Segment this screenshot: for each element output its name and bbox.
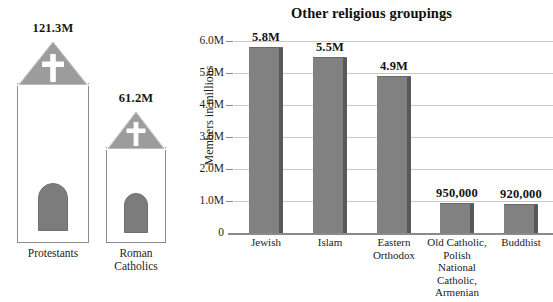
y-tick-mark bbox=[226, 201, 233, 202]
church-roof-icon bbox=[17, 40, 89, 86]
x-axis-category-label: Islam bbox=[297, 236, 363, 249]
y-tick-label: 6.0M bbox=[182, 34, 224, 46]
bar[interactable] bbox=[377, 76, 411, 233]
y-tick-mark bbox=[226, 73, 233, 74]
y-tick-mark bbox=[226, 137, 233, 138]
bar[interactable] bbox=[440, 203, 474, 233]
bar-shadow-edge bbox=[279, 48, 283, 233]
bar[interactable] bbox=[313, 57, 347, 233]
chart-title: Other religious groupings bbox=[190, 5, 553, 22]
bar-value-label: 5.5M bbox=[316, 40, 344, 55]
bar-face bbox=[377, 76, 411, 233]
x-axis-category-label: Old Catholic, Polish National Catholic, … bbox=[424, 236, 490, 299]
y-tick-mark bbox=[226, 41, 233, 42]
bar-shadow-edge bbox=[470, 204, 474, 233]
bar-value-label: 4.9M bbox=[380, 59, 408, 74]
bar-face bbox=[504, 204, 538, 233]
y-tick-label: 0 bbox=[182, 226, 224, 238]
bar[interactable] bbox=[504, 204, 538, 233]
bar-chart: Other religious groupings Members in mil… bbox=[190, 0, 553, 302]
bar-shadow-edge bbox=[407, 77, 411, 233]
bar-face bbox=[313, 57, 347, 233]
bar[interactable] bbox=[249, 47, 283, 233]
bar-face bbox=[249, 47, 283, 233]
x-axis-category-label: Eastern Orthodox bbox=[361, 236, 427, 261]
church-icon bbox=[17, 40, 89, 243]
bar-value-label: 5.8M bbox=[252, 30, 280, 45]
y-tick-mark bbox=[226, 105, 233, 106]
pictogram-name-label: Roman Catholics bbox=[92, 247, 180, 274]
x-axis-category-label: Buddhist bbox=[488, 236, 553, 249]
x-axis-category-label: Jewish bbox=[233, 236, 299, 249]
pictogram-roman-catholics: 61.2M Roman Catholics bbox=[92, 92, 180, 274]
bar-shadow-edge bbox=[534, 205, 538, 233]
pictogram-value-label: 61.2M bbox=[92, 92, 180, 105]
pictogram-panel: 121.3M Protestants 61.2M bbox=[0, 0, 190, 302]
pictogram-value-label: 121.3M bbox=[8, 22, 98, 35]
y-tick-label: 4.0M bbox=[182, 98, 224, 110]
bar-value-label: 920,000 bbox=[500, 187, 542, 202]
church-door bbox=[38, 183, 68, 231]
y-tick-label: 5.0M bbox=[182, 66, 224, 78]
church-roof-icon bbox=[106, 110, 166, 150]
gridline bbox=[234, 41, 553, 42]
y-tick-label: 2.0M bbox=[182, 162, 224, 174]
church-door bbox=[124, 193, 148, 233]
church-icon bbox=[106, 110, 166, 243]
bar-shadow-edge bbox=[343, 58, 347, 233]
pictogram-protestants: 121.3M Protestants bbox=[8, 22, 98, 260]
bar-face bbox=[440, 203, 474, 233]
y-tick-label: 3.0M bbox=[182, 130, 224, 142]
y-tick-mark bbox=[226, 169, 233, 170]
bar-value-label: 950,000 bbox=[436, 186, 478, 201]
pictogram-name-label: Protestants bbox=[8, 247, 98, 261]
y-tick-label: 1.0M bbox=[182, 194, 224, 206]
x-axis-line bbox=[228, 233, 553, 235]
